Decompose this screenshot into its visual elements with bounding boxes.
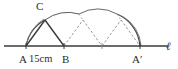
geometry-figure: C A 15cm B A′ ℓ — [0, 0, 178, 69]
arc-c-to-cusp1 — [45, 12, 79, 20]
triangle-side-a-c — [26, 20, 45, 46]
dashed-triangle-1-side-left — [64, 20, 83, 46]
dashed-cusp-connector-1 — [79, 14, 83, 20]
dashed-triangle-1-side-right — [83, 20, 102, 46]
triangle-side-c-b — [45, 20, 64, 46]
label-point-b: B — [62, 54, 69, 65]
label-point-a-prime: A′ — [132, 54, 142, 65]
arc-outline-right — [122, 16, 141, 46]
label-point-a: A — [19, 54, 27, 65]
label-dimension-15cm: 15cm — [29, 54, 52, 65]
dashed-triangle-2-side-left — [102, 20, 121, 46]
label-point-c: C — [36, 1, 43, 12]
arc-cusp1-to-cusp2 — [79, 9, 117, 14]
label-line-l: ℓ — [166, 41, 171, 52]
